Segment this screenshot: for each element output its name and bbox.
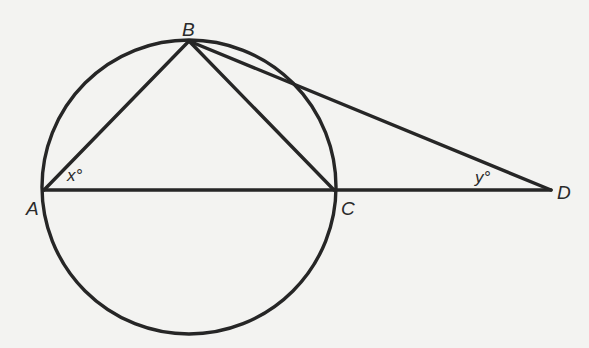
point-label-b: B	[182, 20, 195, 39]
angle-label-y: y°	[475, 169, 490, 186]
angle-label-x: x°	[67, 167, 82, 184]
geometry-figure: B A C D x° y°	[0, 0, 589, 348]
segment-ab	[44, 41, 189, 190]
point-label-d: D	[557, 183, 571, 202]
segment-bd	[189, 41, 551, 190]
point-label-a: A	[26, 199, 39, 218]
point-label-c: C	[341, 199, 355, 218]
segment-bc	[189, 41, 334, 190]
figure-drawing	[0, 0, 589, 348]
